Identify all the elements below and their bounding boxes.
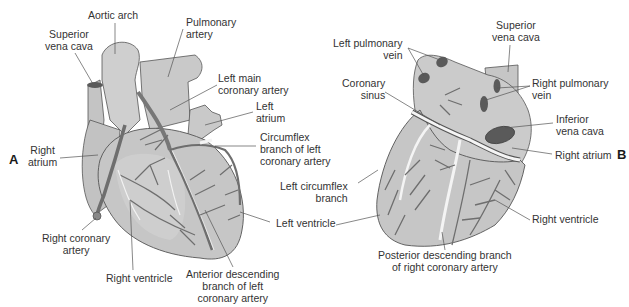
label-text: Left circumflex [280,180,348,192]
label-left-atrium: Left atrium [256,100,285,124]
label-text: sinus [342,89,385,101]
label-text: Anterior descending [186,268,279,280]
label-right-ventricle-b: Right ventricle [532,213,599,225]
label-text: vein [532,89,608,101]
left-atrium-shape [188,105,222,140]
label-superior-vena-cava-b: Superior vena cava [492,19,540,43]
posterior-heart [377,55,532,247]
label-superior-vena-cava-a: Superior vena cava [45,28,93,52]
label-right-atrium-a: Right atrium [28,144,57,168]
label-text: vena cava [492,31,540,43]
label-text: Left pulmonary [333,37,402,49]
label-text: Superior [45,28,93,40]
label-text: Left [256,100,285,112]
label-aortic-arch: Aortic arch [88,9,138,21]
label-right-atrium-b: Right atrium [555,149,612,161]
label-left-pulmonary-vein: Left pulmonary vein [333,37,402,61]
label-right-coronary-artery: Right coronary artery [42,232,110,256]
label-text: Right coronary [42,232,110,244]
label-text: Right pulmonary [532,77,608,89]
label-right-pulmonary-vein: Right pulmonary vein [532,77,608,101]
coronary-anatomy-figure: Aortic arch Superior vena cava Pulmonary… [0,0,629,307]
label-text: Right ventricle [106,272,173,284]
label-text: branch [280,192,348,204]
label-circumflex-branch: Circumflex branch of left coronary arter… [260,131,331,167]
label-text: Right ventricle [532,213,599,225]
label-inferior-vena-cava: Inferior vena cava [556,113,604,137]
label-text: Aortic arch [88,9,138,21]
label-left-ventricle-a: Left ventricle [276,217,336,229]
label-posterior-descending-branch: Posterior descending branch of right cor… [378,249,512,273]
label-text: vein [333,49,402,61]
panel-letter-a: A [9,152,18,167]
label-text: artery [186,28,236,40]
label-text: Left ventricle [276,217,336,229]
panel-letter-b: B [617,147,626,162]
label-text: Superior [492,19,540,31]
label-text: Left main [218,72,289,84]
label-left-circumflex-branch: Left circumflex branch [280,180,348,204]
aortic-arch-shape [102,42,140,135]
label-text: atrium [256,112,285,124]
label-text: vena cava [556,125,604,137]
label-text: coronary artery [260,155,331,167]
label-text: Coronary [342,77,385,89]
label-text: Posterior descending branch [378,249,512,261]
label-text: branch of left [260,143,331,155]
label-left-main-coronary-artery: Left main coronary artery [218,72,289,96]
label-text: Pulmonary [186,16,236,28]
label-pulmonary-artery: Pulmonary artery [186,16,236,40]
label-text: Right [28,144,57,156]
label-text: Right atrium [555,149,612,161]
label-text: atrium [28,156,57,168]
label-right-ventricle-a: Right ventricle [106,272,173,284]
label-text: coronary artery [218,84,289,96]
label-coronary-sinus: Coronary sinus [342,77,385,101]
label-text: coronary artery [186,292,279,304]
label-text: artery [42,244,110,256]
label-text: vena cava [45,40,93,52]
label-text: Circumflex [260,131,331,143]
label-anterior-descending-branch: Anterior descending branch of left coron… [186,268,279,304]
label-text: branch of left [186,280,279,292]
label-text: of right coronary artery [378,261,512,273]
label-text: Inferior [556,113,604,125]
